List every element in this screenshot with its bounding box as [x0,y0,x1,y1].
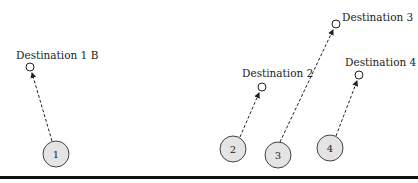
diagram-canvas: Destination 1 B Destination 2 Destinatio… [0,0,418,183]
destination-2-marker [258,83,266,91]
path-2-to-destination-2 [240,93,259,137]
path-4-to-destination-4 [336,81,357,136]
diagram-svg: Destination 1 B Destination 2 Destinatio… [0,0,418,183]
destination-1b-marker [26,63,34,71]
path-3-to-destination-3 [280,30,333,142]
agent-4-number: 4 [327,143,333,154]
destination-1b-label: Destination 1 B [16,49,99,61]
destination-3-label: Destination 3 [342,11,413,23]
destination-2-label: Destination 2 [242,67,313,79]
agent-1-number: 1 [53,149,59,160]
destination-4-label: Destination 4 [345,56,417,68]
path-1-to-destination-1b [32,73,52,141]
destination-4-marker [355,71,363,79]
ground-baseline [0,176,418,179]
destination-3-marker [332,20,340,28]
agent-2-number: 2 [230,144,236,155]
agent-3-number: 3 [275,150,281,161]
